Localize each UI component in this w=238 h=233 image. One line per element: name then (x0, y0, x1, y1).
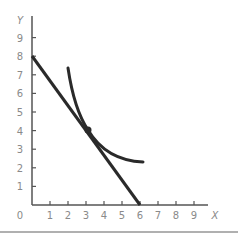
y-tick-label: 4 (17, 126, 23, 137)
x-tick-label: 1 (47, 210, 53, 221)
y-tick-label: 8 (17, 51, 23, 62)
x-tick-label: 6 (137, 210, 143, 221)
x-tick-label: 5 (119, 210, 125, 221)
x-tick-label: 9 (191, 210, 197, 221)
x-ticks: 123456789 (47, 201, 197, 221)
origin-label: 0 (17, 210, 23, 221)
y-tick-label: 9 (17, 33, 23, 44)
x-tick-label: 2 (65, 210, 71, 221)
y-tick-label: 3 (17, 144, 23, 155)
y-tick-label: 2 (17, 163, 23, 174)
indifference-curve (68, 68, 143, 162)
x-tick-label: 8 (173, 210, 179, 221)
x-axis-label: X (211, 210, 220, 221)
y-tick-label: 7 (17, 70, 23, 81)
x-tick-label: 3 (83, 210, 89, 221)
x-tick-label: 4 (101, 210, 107, 221)
y-axis-label: Y (17, 15, 24, 26)
y-tick-label: 1 (17, 181, 23, 192)
tangency-point (85, 127, 92, 134)
y-tick-label: 5 (17, 107, 23, 118)
chart: 123456789 123456789 Y X 0 (0, 0, 238, 233)
x-tick-label: 7 (155, 210, 161, 221)
y-tick-label: 6 (17, 88, 23, 99)
